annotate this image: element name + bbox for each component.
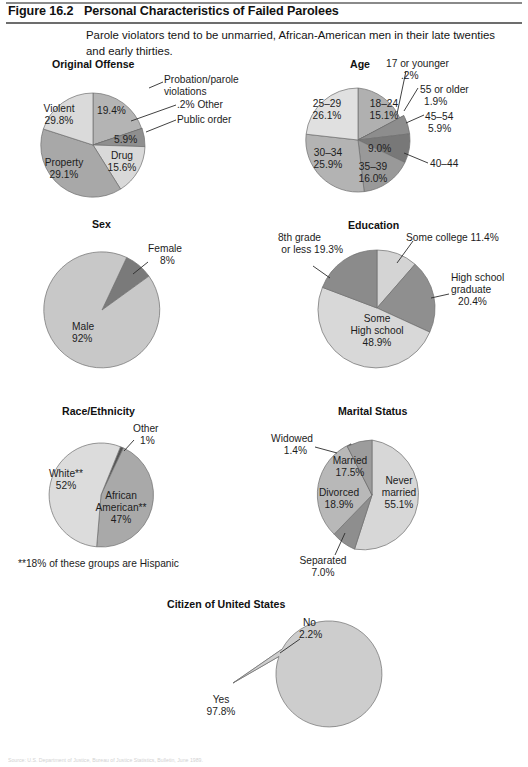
figure-caption: Parole violators tend to be unmarried, A…	[86, 28, 506, 59]
pie-age	[258, 58, 528, 223]
label-yes-line1: Yes	[196, 694, 246, 706]
label-45-54-line1: 45–54	[425, 111, 453, 123]
label-probation-line2: violations	[164, 86, 206, 98]
label-white-line1: White**	[38, 468, 94, 480]
chart-sex: Sex Female 8% Male 92%	[20, 218, 270, 378]
leader-other	[124, 440, 134, 451]
label-female-line1: Female	[148, 243, 182, 255]
label-35-39-line1: 35–39	[351, 161, 395, 173]
label-white-line2: 52%	[38, 480, 94, 492]
label-30-34-line2: 25.9%	[306, 159, 350, 171]
label-8th-grade-line2: or less 19.3%	[255, 244, 343, 256]
label-hs-grad-line2: graduate	[451, 284, 491, 296]
label-drug-line1: Drug	[96, 150, 148, 162]
label-other-line2: 1%	[140, 435, 155, 447]
label-40-44: 40–44	[430, 158, 458, 170]
label-female-line2: 8%	[160, 255, 175, 267]
figure-number: Figure 16.2	[8, 4, 73, 18]
label-never-married-line2: married	[367, 487, 431, 499]
label-35-39-line2: 16.0%	[351, 173, 395, 185]
label-property-line2: 29.1%	[35, 169, 93, 181]
leader-public-order	[146, 120, 176, 132]
label-18-24-line1: 18–24	[362, 98, 406, 110]
source-note: Source: U.S. Department of Justice, Bure…	[8, 757, 522, 764]
label-yes-line2: 97.8%	[192, 706, 250, 718]
header-rule-bottom	[6, 22, 522, 24]
label-some-hs-line1: Some	[335, 313, 419, 325]
pie-citizen	[130, 598, 410, 748]
label-divorced-line1: Divorced	[308, 487, 370, 499]
label-widowed-line1: Widowed	[255, 433, 313, 445]
chart-age: Age 18–24 15.1% 17 or	[258, 58, 528, 223]
label-widowed-line2: 1.4%	[255, 445, 307, 457]
label-public-order: Public order	[177, 114, 231, 126]
label-no-line1: No	[303, 617, 316, 629]
chart-original-offense: Original Offense 19.4% Probation/parole …	[0, 58, 270, 218]
label-public-order-pct: 5.9%	[114, 134, 137, 146]
label-property-line1: Property	[35, 157, 93, 169]
label-married-line1: Married	[321, 455, 379, 467]
label-30-34-line1: 30–34	[306, 147, 350, 159]
label-55-or-older-line1: 55 or older	[420, 84, 469, 96]
figure-header: Figure 16.2 Personal Characteristics of …	[6, 2, 522, 24]
leader-8th-grade-or-less	[313, 266, 330, 278]
figure-title: Personal Characteristics of Failed Parol…	[84, 4, 339, 18]
chart-marital-status: Marital Status Never married 55.1% Separ…	[255, 405, 528, 585]
leader-probation	[149, 82, 163, 88]
label-hs-grad-line1: High school	[451, 272, 504, 284]
label-separated-line2: 7.0%	[291, 567, 355, 579]
label-25-29-line2: 26.1%	[305, 110, 349, 122]
label-probation-line1: Probation/parole	[164, 74, 239, 86]
leader-other	[131, 105, 176, 121]
label-probation-pct: 19.4%	[97, 105, 126, 117]
label-some-hs-line2: High school	[335, 325, 419, 337]
race-footnote: **18% of these groups are Hispanic	[18, 558, 179, 570]
label-separated-line1: Separated	[291, 555, 355, 567]
label-55-or-older-line2: 1.9%	[424, 96, 447, 108]
label-never-married-line3: 55.1%	[367, 499, 431, 511]
label-other: .2% Other	[177, 99, 223, 111]
label-45-54-line2: 5.9%	[428, 123, 451, 135]
label-some-hs-line3: 48.9%	[335, 337, 419, 349]
label-17-or-younger-line1: 17 or younger	[386, 58, 449, 70]
label-violent-line2: 29.8%	[33, 115, 85, 127]
label-married-line2: 17.5%	[321, 467, 379, 479]
label-no-line2: 2.2%	[299, 629, 322, 641]
label-african-american-line2: American**	[84, 502, 158, 514]
label-violent-line1: Violent	[33, 103, 85, 115]
leader-55-or-older	[404, 88, 418, 111]
label-other-line1: Other	[133, 423, 158, 435]
chart-education: Education Some college 11.4% High school…	[255, 218, 528, 378]
label-25-29-line1: 25–29	[305, 98, 349, 110]
label-17-or-younger-line2: .2%	[401, 70, 419, 82]
leader-40-44	[404, 153, 428, 163]
leader-widowed	[315, 447, 337, 453]
label-drug-line2: 15.6%	[96, 162, 148, 174]
label-18-24-line2: 15.1%	[362, 110, 406, 122]
label-some-college: Some college 11.4%	[406, 232, 499, 244]
label-40-44-pct: 9.0%	[368, 143, 391, 155]
label-divorced-line2: 18.9%	[308, 499, 370, 511]
label-african-american-line1: African	[84, 490, 158, 502]
chart-race-ethnicity: Race/Ethnicity Other 1% African American…	[0, 405, 270, 585]
label-8th-grade-line1: 8th grade	[255, 232, 321, 244]
pie-sex	[20, 218, 270, 378]
leader-45-54	[406, 115, 424, 123]
label-hs-grad-line3: 20.4%	[458, 296, 487, 308]
chart-citizen-of-united-states: Citizen of United States No 2.2% Yes 97.…	[130, 598, 410, 748]
label-male-line2: 92%	[72, 333, 92, 345]
label-african-american-line3: 47%	[84, 514, 158, 526]
label-male-line1: Male	[72, 321, 94, 333]
